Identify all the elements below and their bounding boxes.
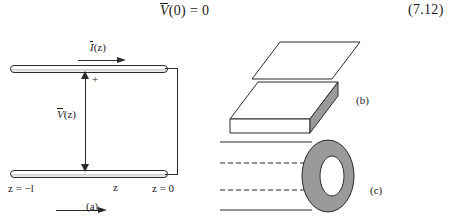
figure-b-caption: (b) bbox=[356, 94, 369, 106]
right-terminating-link bbox=[177, 68, 178, 175]
voltage-arrow-shaft bbox=[85, 76, 86, 167]
current-label-argument: (z) bbox=[94, 41, 106, 53]
equation-lhs-argument: (0) bbox=[169, 3, 186, 18]
right-end-coordinate-label: z = 0 bbox=[152, 182, 174, 194]
coax-inner-bore bbox=[320, 156, 344, 196]
equation-lhs-variable: V bbox=[160, 2, 169, 19]
figure-b-parallel-plate bbox=[230, 42, 360, 133]
current-direction-arrow-icon bbox=[78, 57, 126, 64]
bottom-plate-front-face bbox=[230, 119, 310, 133]
voltage-double-arrow-icon bbox=[81, 71, 90, 172]
right-bottom-lead bbox=[165, 174, 178, 175]
polarity-plus-marker: + bbox=[92, 74, 98, 85]
figure-group: I(z) + V(z) z = −l z z = 0 (a) bbox=[0, 24, 475, 221]
figure-c-coaxial-line bbox=[220, 140, 354, 212]
z-axis-direction-arrow-icon bbox=[56, 207, 108, 214]
equation-expression: V(0) = 0 bbox=[160, 2, 209, 19]
figure-a-two-wire-line: I(z) + V(z) z = −l z z = 0 (a) bbox=[0, 24, 232, 221]
z-axis-label: z bbox=[113, 181, 118, 193]
textbook-figure-page: V(0) = 0 (7.12) I(z) bbox=[0, 0, 475, 221]
left-end-coordinate-label: z = −l bbox=[8, 182, 34, 194]
voltage-arrow-head-down bbox=[81, 164, 89, 172]
current-arrow-head bbox=[117, 57, 126, 63]
figure-a-caption: (a) bbox=[86, 200, 98, 212]
voltage-label-variable: V bbox=[57, 107, 64, 120]
equation-relation: = bbox=[190, 3, 198, 18]
figure-bc-group: (b) (c) bbox=[210, 24, 475, 221]
equation-rhs: 0 bbox=[202, 3, 209, 18]
voltage-label-argument: (z) bbox=[64, 108, 76, 120]
voltage-label: V(z) bbox=[55, 107, 78, 120]
figure-bc-drawing bbox=[210, 24, 475, 221]
current-label: I(z) bbox=[90, 40, 106, 53]
figure-c-caption: (c) bbox=[370, 184, 382, 196]
z-axis-arrow-head bbox=[98, 207, 107, 213]
equation-number: (7.12) bbox=[408, 2, 444, 18]
current-arrow-shaft bbox=[78, 60, 119, 61]
top-plate-face bbox=[252, 42, 360, 79]
equation-row: V(0) = 0 (7.12) bbox=[0, 2, 475, 24]
current-label-variable: I bbox=[90, 40, 94, 53]
